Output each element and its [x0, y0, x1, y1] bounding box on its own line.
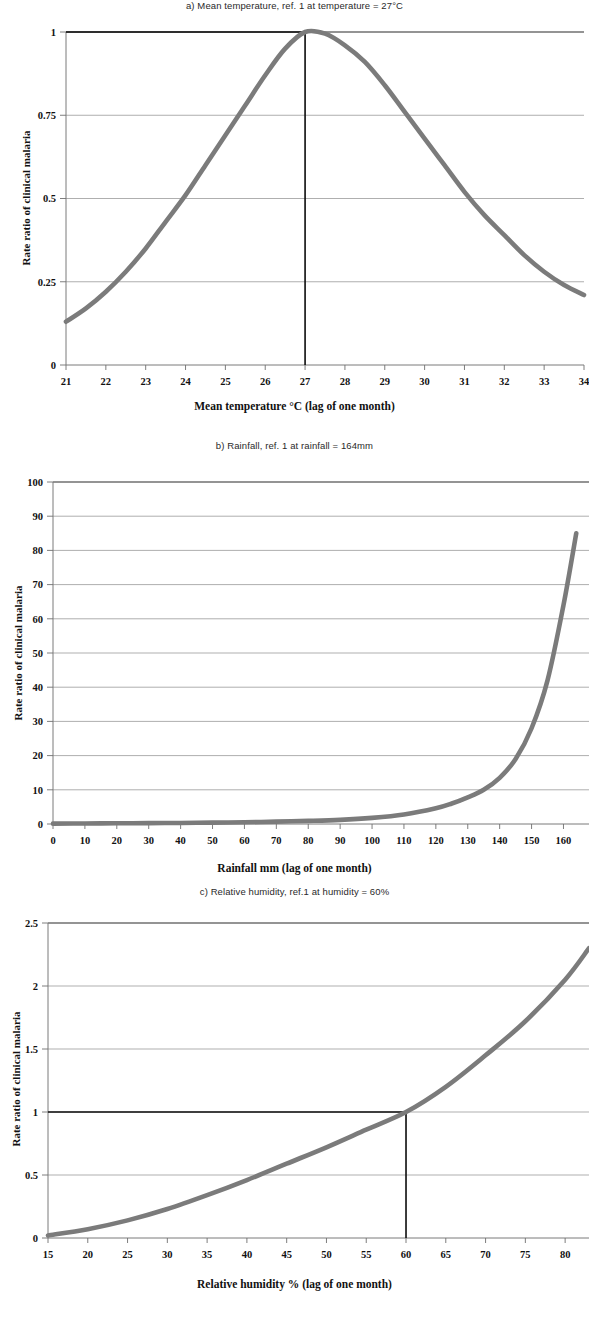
chart-c-x-axis-label: Relative humidity % (lag of one month) — [0, 1278, 589, 1290]
x-tick-label: 70 — [480, 1249, 491, 1260]
data-curve — [53, 533, 576, 823]
y-tick-label: 100 — [27, 477, 43, 488]
x-tick-label: 55 — [361, 1249, 372, 1260]
y-tick-label: 0 — [33, 1233, 38, 1244]
x-tick-label: 20 — [112, 835, 123, 846]
chart-panel-b: b) Rainfall, ref. 1 at rainfall = 164mm … — [0, 440, 589, 885]
x-tick-label: 24 — [180, 376, 191, 387]
x-tick-label: 0 — [50, 835, 55, 846]
x-tick-label: 30 — [419, 376, 430, 387]
y-tick-label: 10 — [33, 785, 44, 796]
x-tick-label: 120 — [428, 835, 444, 846]
y-tick-label: 2 — [33, 981, 38, 992]
chart-a-x-axis-label: Mean temperature °C (lag of one month) — [0, 400, 589, 412]
x-tick-label: 80 — [303, 835, 314, 846]
y-tick-label: 0.25 — [38, 277, 56, 288]
y-tick-label: 1.5 — [25, 1044, 38, 1055]
x-tick-label: 29 — [380, 376, 391, 387]
x-tick-label: 32 — [499, 376, 510, 387]
chart-b-plot: 0102030405060708090100010203040506070809… — [0, 440, 589, 850]
y-tick-label: 2.5 — [25, 918, 38, 929]
x-tick-label: 25 — [122, 1249, 133, 1260]
x-tick-label: 60 — [401, 1249, 412, 1260]
x-tick-label: 33 — [539, 376, 550, 387]
y-tick-label: 0.5 — [25, 1170, 38, 1181]
x-tick-label: 31 — [459, 376, 470, 387]
y-tick-label: 50 — [33, 648, 44, 659]
y-tick-label: 40 — [33, 682, 44, 693]
x-tick-label: 50 — [321, 1249, 332, 1260]
x-tick-label: 30 — [162, 1249, 173, 1260]
y-tick-label: 0.75 — [38, 110, 56, 121]
x-tick-label: 15 — [43, 1249, 54, 1260]
y-tick-label: 20 — [33, 750, 44, 761]
x-tick-label: 130 — [460, 835, 476, 846]
x-tick-label: 100 — [364, 835, 380, 846]
y-tick-label: 0 — [38, 819, 43, 830]
x-tick-label: 35 — [202, 1249, 213, 1260]
x-tick-label: 140 — [492, 835, 508, 846]
x-tick-label: 40 — [242, 1249, 253, 1260]
chart-b-x-axis-label: Rainfall mm (lag of one month) — [0, 862, 589, 874]
malaria-rate-ratio-figure: a) Mean temperature, ref. 1 at temperatu… — [0, 0, 589, 1325]
y-tick-label: 30 — [33, 716, 44, 727]
x-tick-label: 28 — [340, 376, 351, 387]
x-tick-label: 45 — [281, 1249, 292, 1260]
x-tick-label: 30 — [143, 835, 154, 846]
x-tick-label: 65 — [441, 1249, 452, 1260]
x-tick-label: 150 — [524, 835, 540, 846]
x-tick-label: 50 — [207, 835, 218, 846]
x-tick-label: 34 — [579, 376, 589, 387]
x-tick-label: 90 — [335, 835, 346, 846]
x-tick-label: 21 — [61, 376, 72, 387]
chart-c-plot: 00.511.522.51520253035404550556065707580 — [0, 886, 589, 1286]
chart-panel-a: a) Mean temperature, ref. 1 at temperatu… — [0, 0, 589, 430]
x-tick-label: 20 — [83, 1249, 94, 1260]
x-tick-label: 22 — [101, 376, 112, 387]
y-tick-label: 70 — [33, 579, 44, 590]
chart-a-plot: 00.250.50.751212223242526272829303132333… — [0, 0, 589, 400]
x-tick-label: 110 — [396, 835, 411, 846]
data-curve — [66, 31, 584, 322]
y-tick-label: 90 — [33, 511, 44, 522]
x-tick-label: 75 — [520, 1249, 531, 1260]
x-tick-label: 80 — [560, 1249, 571, 1260]
y-tick-label: 60 — [33, 614, 44, 625]
y-tick-label: 0.5 — [43, 193, 56, 204]
x-tick-label: 26 — [260, 376, 271, 387]
y-tick-label: 1 — [51, 27, 56, 38]
x-tick-label: 40 — [175, 835, 186, 846]
x-tick-label: 70 — [271, 835, 282, 846]
data-curve — [48, 948, 589, 1235]
x-tick-label: 23 — [140, 376, 151, 387]
x-tick-label: 27 — [300, 376, 311, 387]
x-tick-label: 60 — [239, 835, 250, 846]
chart-panel-c: c) Relative humidity, ref.1 at humidity … — [0, 886, 589, 1325]
y-tick-label: 80 — [33, 545, 44, 556]
x-tick-label: 160 — [556, 835, 572, 846]
y-tick-label: 0 — [51, 360, 56, 371]
y-tick-label: 1 — [33, 1107, 38, 1118]
x-tick-label: 25 — [220, 376, 231, 387]
x-tick-label: 10 — [80, 835, 91, 846]
